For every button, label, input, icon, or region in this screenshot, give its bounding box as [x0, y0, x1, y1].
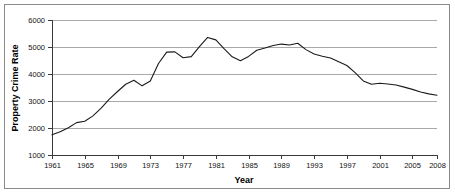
y-tick-label: 3000: [28, 97, 45, 106]
x-tick-label: 2005: [404, 161, 421, 170]
x-tick-label: 1969: [110, 161, 127, 170]
x-axis-ticks: 1961196519691973197719811985198919931997…: [44, 155, 446, 170]
x-tick-label: 1965: [77, 161, 94, 170]
x-axis-title: Year: [234, 175, 254, 185]
x-tick-label: 1981: [208, 161, 225, 170]
series-line-property-crime-rate: [52, 37, 437, 134]
y-tick-label: 2000: [28, 124, 45, 133]
x-tick-label: 1961: [44, 161, 61, 170]
x-tick-label: 2001: [372, 161, 389, 170]
x-tick-label: 1997: [339, 161, 356, 170]
y-tick-label: 6000: [28, 16, 45, 25]
line-chart: 100020003000400050006000 196119651969197…: [0, 0, 455, 194]
y-axis-title: Property Crime Rate: [10, 44, 20, 131]
x-tick-label: 1989: [273, 161, 290, 170]
x-tick-label: 1993: [306, 161, 323, 170]
y-axis-ticks: 100020003000400050006000: [28, 16, 52, 160]
y-tick-label: 5000: [28, 43, 45, 52]
data-series-group: [52, 37, 437, 134]
chart-figure: 100020003000400050006000 196119651969197…: [0, 0, 455, 194]
y-tick-label: 1000: [28, 151, 45, 160]
x-tick-label: 1977: [175, 161, 192, 170]
x-tick-label: 2008: [429, 161, 446, 170]
y-tick-label: 4000: [28, 70, 45, 79]
gridlines: [52, 21, 437, 156]
x-tick-label: 1985: [241, 161, 258, 170]
x-tick-label: 1973: [142, 161, 159, 170]
